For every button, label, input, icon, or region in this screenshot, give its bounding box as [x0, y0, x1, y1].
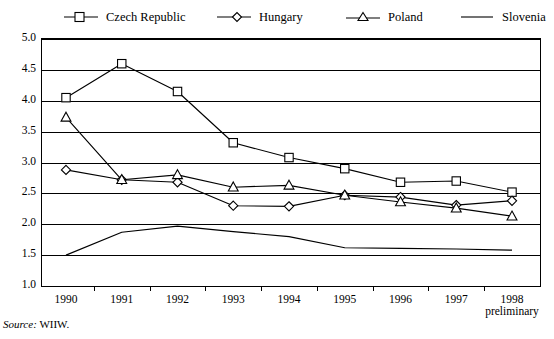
x-tick-year: 1990 — [55, 293, 78, 305]
x-tick-year: 1993 — [222, 293, 245, 305]
x-tick-year: 1996 — [389, 293, 412, 305]
x-tick-label: 1998preliminary — [482, 293, 542, 317]
x-tick-label: 1995 — [315, 293, 375, 305]
x-tick-label: 1992 — [148, 293, 208, 305]
y-tick-label: 2.5 — [2, 186, 36, 197]
source-label: Source: — [3, 318, 37, 330]
x-axis-ticks — [41, 286, 541, 293]
x-tick-sublabel: preliminary — [482, 305, 542, 317]
legend-item-poland[interactable]: Poland — [345, 6, 423, 28]
legend-marker-line-icon — [459, 10, 495, 24]
chart-figure: Czech Republic Hungary Poland — [0, 0, 554, 339]
legend-label: Hungary — [259, 10, 303, 24]
y-tick-label: 1.0 — [2, 279, 36, 290]
x-tick-label: 1991 — [92, 293, 152, 305]
x-tick-year: 1994 — [278, 293, 301, 305]
legend-label: Slovenia — [502, 10, 546, 24]
x-tick-year: 1991 — [110, 293, 133, 305]
y-tick-label: 1.5 — [2, 248, 36, 259]
y-tick-label: 5.0 — [2, 32, 36, 43]
y-tick-label: 4.0 — [2, 94, 36, 105]
source-note: Source: WIIW. — [3, 318, 69, 331]
legend-item-hungary[interactable]: Hungary — [216, 6, 303, 28]
y-tick-label: 4.5 — [2, 63, 36, 74]
x-tick-year: 1992 — [166, 293, 189, 305]
y-tick-label: 3.0 — [2, 156, 36, 167]
x-tick-year: 1997 — [445, 293, 468, 305]
legend-marker-diamond-icon — [216, 10, 252, 24]
legend-marker-triangle-icon — [345, 10, 381, 24]
chart-canvas — [41, 38, 541, 287]
source-value: WIIW. — [39, 318, 69, 330]
x-tick-label: 1994 — [259, 293, 319, 305]
y-tick-label: 2.0 — [2, 217, 36, 228]
x-tick-label: 1993 — [203, 293, 263, 305]
x-tick-year: 1995 — [333, 293, 356, 305]
chart-legend: Czech Republic Hungary Poland — [0, 6, 554, 28]
plot-area — [41, 38, 539, 285]
x-tick-label: 1990 — [36, 293, 96, 305]
legend-marker-square-icon — [63, 10, 99, 24]
x-tick-year: 1998 — [501, 293, 524, 305]
y-tick-label: 3.5 — [2, 125, 36, 136]
legend-label: Czech Republic — [106, 10, 186, 24]
legend-label: Poland — [388, 10, 423, 24]
x-tick-label: 1997 — [426, 293, 486, 305]
legend-item-czech-republic[interactable]: Czech Republic — [63, 6, 186, 28]
x-tick-label: 1996 — [371, 293, 431, 305]
legend-item-slovenia[interactable]: Slovenia — [459, 6, 546, 28]
